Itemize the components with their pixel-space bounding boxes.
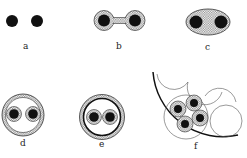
diagram-figure: a b c d e bbox=[0, 0, 247, 158]
dot-icon bbox=[6, 15, 18, 27]
panel-c: c bbox=[186, 9, 230, 52]
panel-label-f: f bbox=[194, 141, 198, 151]
dot-icon bbox=[98, 15, 110, 27]
dot-icon bbox=[181, 120, 189, 128]
dot-icon bbox=[190, 99, 198, 107]
panel-a: a bbox=[6, 15, 43, 51]
panel-label-b: b bbox=[116, 41, 122, 51]
tangent-circle bbox=[210, 105, 242, 137]
panel-b: b bbox=[94, 11, 145, 52]
dot-icon bbox=[174, 105, 182, 113]
dot-icon bbox=[190, 16, 203, 29]
panel-label-d: d bbox=[20, 138, 26, 148]
dot-icon bbox=[129, 15, 141, 27]
dot-icon bbox=[105, 112, 115, 122]
dot-icon bbox=[9, 109, 19, 119]
panel-e: e bbox=[80, 95, 125, 150]
dot-icon bbox=[31, 15, 43, 27]
panel-label-a: a bbox=[23, 41, 29, 51]
panel-f: f bbox=[153, 72, 242, 151]
dot-icon bbox=[215, 16, 228, 29]
dot-icon bbox=[28, 109, 38, 119]
dot-icon bbox=[196, 114, 204, 122]
panel-label-c: c bbox=[205, 42, 210, 52]
panel-label-e: e bbox=[99, 139, 104, 149]
panel-d: d bbox=[2, 94, 44, 148]
dot-icon bbox=[89, 112, 99, 122]
tangent-circle bbox=[157, 74, 188, 89]
